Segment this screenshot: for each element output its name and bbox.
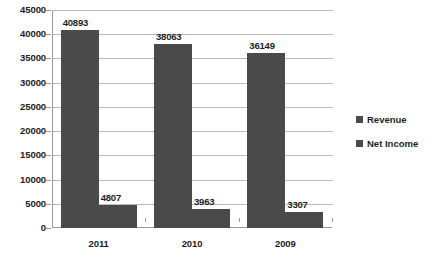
bar xyxy=(154,44,192,228)
x-axis-category-label: 2011 xyxy=(52,238,145,249)
y-axis-tick-label: 15000 xyxy=(0,149,46,160)
legend-item: Revenue xyxy=(356,114,418,125)
bar xyxy=(192,209,230,228)
bar-value-label: 38063 xyxy=(156,31,181,42)
y-axis-tick-label: 0 xyxy=(0,222,46,233)
y-axis-tick-mark xyxy=(46,228,51,229)
y-axis-tick-label: 45000 xyxy=(0,4,46,15)
bar xyxy=(285,212,323,228)
bar-chart: 0500010000150002000025000300003500040000… xyxy=(0,0,426,266)
y-axis-tick-mark xyxy=(46,155,51,156)
x-axis-category-label: 2010 xyxy=(145,238,238,249)
bar-value-label: 40893 xyxy=(63,17,88,28)
y-axis-tick-mark xyxy=(46,83,51,84)
y-axis-tick-label: 5000 xyxy=(0,198,46,209)
bar-value-label: 4807 xyxy=(101,192,121,203)
x-axis-tick-mark xyxy=(239,218,240,222)
y-axis-tick-label: 35000 xyxy=(0,52,46,63)
y-axis-tick-mark xyxy=(46,34,51,35)
y-axis-tick-label: 40000 xyxy=(0,28,46,39)
legend-item-label: Net Income xyxy=(367,138,418,149)
x-axis-tick-mark xyxy=(145,218,146,222)
chart-legend: RevenueNet Income xyxy=(356,114,418,162)
x-axis-tick-mark xyxy=(332,218,333,222)
y-axis-tick-mark xyxy=(46,10,51,11)
y-axis-tick-mark xyxy=(46,131,51,132)
gridline xyxy=(53,10,333,11)
y-axis-tick-label: 25000 xyxy=(0,101,46,112)
bar xyxy=(247,53,285,228)
y-axis-tick-mark xyxy=(46,107,51,108)
bar-value-label: 3963 xyxy=(194,196,214,207)
bar-value-label: 3307 xyxy=(287,199,307,210)
y-axis-tick-mark xyxy=(46,180,51,181)
y-axis-tick-label: 30000 xyxy=(0,77,46,88)
legend-swatch-icon xyxy=(356,140,363,147)
legend-item: Net Income xyxy=(356,138,418,149)
bar-value-label: 36149 xyxy=(249,40,274,51)
bar xyxy=(99,205,137,228)
y-axis-tick-label: 20000 xyxy=(0,125,46,136)
legend-item-label: Revenue xyxy=(367,114,407,125)
bar xyxy=(61,30,99,228)
x-axis-category-label: 2009 xyxy=(239,238,332,249)
y-axis-tick-mark xyxy=(46,58,51,59)
y-axis-tick-mark xyxy=(46,204,51,205)
y-axis-tick-label: 10000 xyxy=(0,174,46,185)
legend-swatch-icon xyxy=(356,116,363,123)
